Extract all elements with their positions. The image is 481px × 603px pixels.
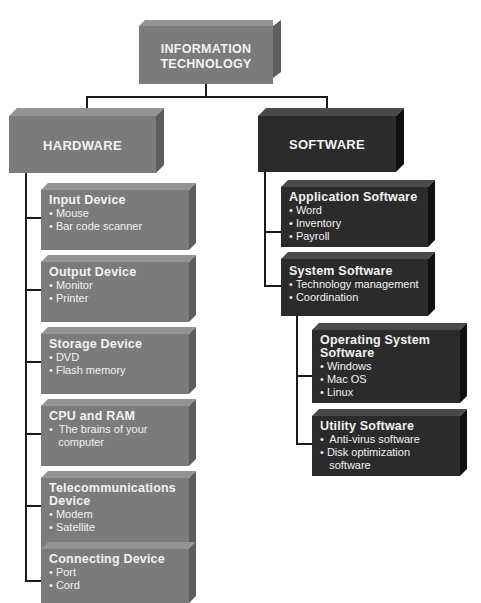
os-software-item-windows: • Windows xyxy=(320,360,372,373)
utility-software-item-disk-opt-cont: software xyxy=(320,459,371,472)
hardware-box: HARDWARE xyxy=(9,108,164,173)
software-title: SOFTWARE xyxy=(258,137,396,152)
application-software-title: Application Software xyxy=(289,190,417,204)
cpu-ram-title: CPU and RAM xyxy=(49,409,135,423)
hardware-connecting-device-box: Connecting Device • Port • Cord xyxy=(41,542,196,603)
telecom-device-title-line2: Device xyxy=(49,494,91,508)
hardware-title: HARDWARE xyxy=(9,138,156,153)
hardware-output-device-box: Output Device • Monitor • Printer xyxy=(41,255,196,322)
os-software-title: Operating System xyxy=(320,333,430,347)
telecom-device-item-modem: • Modem xyxy=(49,508,93,521)
connector-hw-output xyxy=(25,289,41,291)
connector-hw-storage xyxy=(25,361,41,363)
utility-software-item-disk-opt: • Disk optimization xyxy=(320,446,410,459)
hardware-input-device-box: Input Device • Mouse • Bar code scanner xyxy=(41,183,196,250)
root-title-line1: INFORMATION xyxy=(139,42,273,56)
hardware-cpu-ram-box: CPU and RAM • The brains of your compute… xyxy=(41,399,196,466)
storage-device-item-dvd: • DVD xyxy=(49,351,79,364)
storage-device-title: Storage Device xyxy=(49,337,142,351)
hardware-telecom-device-box: Telecommunications Device • Modem • Sate… xyxy=(41,471,196,551)
connector-sys-os xyxy=(296,375,312,377)
software-application-box: Application Software • Word • Inventory … xyxy=(281,180,435,247)
os-software-item-linux: • Linux xyxy=(320,386,353,399)
connector-software-spine xyxy=(264,170,266,287)
application-software-item-inventory: • Inventory xyxy=(289,217,341,230)
connector-root-horizontal xyxy=(86,96,328,98)
system-os-box: Operating System Software • Windows • Ma… xyxy=(312,323,467,403)
utility-software-title: Utility Software xyxy=(320,419,414,433)
utility-software-item-antivirus: • Anti-virus software xyxy=(320,433,420,446)
root-box-information-technology: INFORMATION TECHNOLOGY xyxy=(139,20,281,84)
output-device-title: Output Device xyxy=(49,265,136,279)
software-system-box: System Software • Technology management … xyxy=(281,252,435,316)
system-software-title: System Software xyxy=(289,264,393,278)
storage-device-item-flash: • Flash memory xyxy=(49,364,126,377)
os-software-item-macos: • Mac OS xyxy=(320,373,367,386)
connector-system-spine xyxy=(296,316,298,444)
connector-hw-cpu xyxy=(25,433,41,435)
output-device-item-printer: • Printer xyxy=(49,292,88,305)
input-device-item-barcode: • Bar code scanner xyxy=(49,220,142,233)
connector-hardware-spine xyxy=(25,172,27,582)
application-software-item-payroll: • Payroll xyxy=(289,230,330,243)
connecting-device-item-cord: • Cord xyxy=(49,579,80,592)
connector-sys-utility xyxy=(296,443,312,445)
input-device-title: Input Device xyxy=(49,193,126,207)
hardware-storage-device-box: Storage Device • DVD • Flash memory xyxy=(41,327,196,394)
software-box: SOFTWARE xyxy=(258,108,404,172)
os-software-title-line2: Software xyxy=(320,346,374,360)
system-software-item-tech-mgmt: • Technology management xyxy=(289,278,419,291)
cpu-ram-item-brains: • The brains of your xyxy=(49,423,147,436)
application-software-item-word: • Word xyxy=(289,204,322,217)
system-utility-box: Utility Software • Anti-virus software •… xyxy=(312,409,467,476)
root-title-line2: TECHNOLOGY xyxy=(139,57,273,71)
connector-hw-telecom xyxy=(25,505,41,507)
connecting-device-item-port: • Port xyxy=(49,566,76,579)
system-software-item-coordination: • Coordination xyxy=(289,291,358,304)
connecting-device-title: Connecting Device xyxy=(49,552,165,566)
telecom-device-item-satellite: • Satellite xyxy=(49,521,95,534)
output-device-item-monitor: • Monitor xyxy=(49,279,93,292)
connector-hw-connecting xyxy=(25,580,41,582)
cpu-ram-item-computer: computer xyxy=(49,436,104,449)
connector-hw-input xyxy=(25,217,41,219)
telecom-device-title: Telecommunications xyxy=(49,481,176,495)
input-device-item-mouse: • Mouse xyxy=(49,207,89,220)
